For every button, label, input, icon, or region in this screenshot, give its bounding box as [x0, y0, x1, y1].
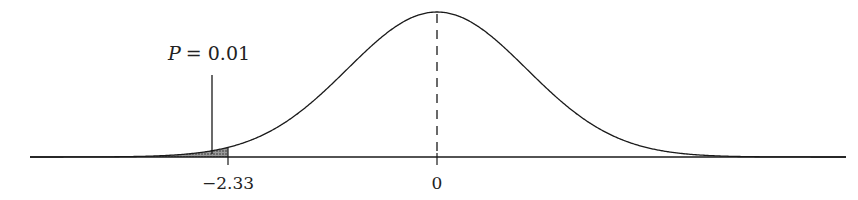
- annotation-p-value: P= 0.01: [167, 42, 250, 64]
- tick-label-zero: 0: [432, 173, 443, 193]
- normal-distribution-chart: P= 0.01 −2.33 0: [0, 0, 858, 200]
- tick-label-neg-2-33: −2.33: [202, 173, 254, 193]
- normal-curve: [30, 12, 846, 157]
